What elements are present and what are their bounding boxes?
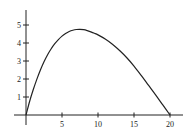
y-tick-label: 1 [17, 93, 21, 102]
axes [14, 10, 183, 125]
x-tick-label: 5 [60, 120, 64, 129]
data-series [26, 29, 170, 115]
y-tick-label: 2 [17, 75, 21, 84]
y-tick-label: 4 [17, 39, 21, 48]
y-tick-label: 3 [17, 57, 21, 66]
x-tick-label: 15 [130, 120, 138, 129]
x-tick-label: 10 [94, 120, 102, 129]
x-tick-label: 20 [166, 120, 174, 129]
line-chart: 5101520 12345 [0, 0, 192, 138]
y-axis-ticks: 12345 [17, 21, 29, 102]
y-tick-label: 5 [17, 21, 21, 30]
data-curve [26, 29, 170, 115]
